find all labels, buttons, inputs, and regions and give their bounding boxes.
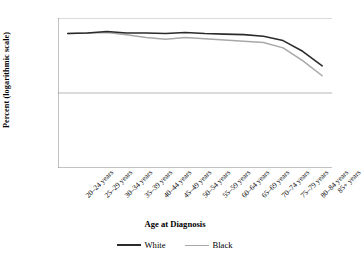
legend-swatch-white — [117, 244, 141, 246]
legend-item-black[interactable]: Black — [185, 240, 232, 250]
legend-label-black: Black — [212, 240, 232, 250]
legend-swatch-black — [185, 245, 209, 246]
plot-svg — [58, 18, 332, 168]
legend-label-white: White — [144, 240, 165, 250]
plot-area — [58, 18, 332, 168]
legend-item-white[interactable]: White — [117, 240, 165, 250]
x-axis-title: Age at Diagnosis — [0, 219, 350, 229]
chart-legend: WhiteBlack — [0, 240, 350, 250]
series-line-black — [68, 33, 322, 76]
